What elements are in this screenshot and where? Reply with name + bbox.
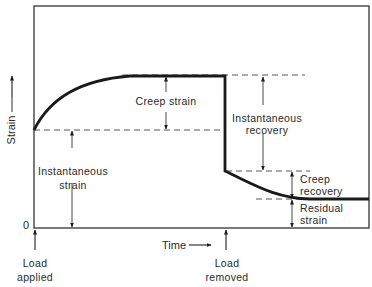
creep-recovery-label-line2: recovery [300, 185, 343, 197]
y-axis-label: Strain [5, 116, 17, 145]
creep-strain-diagram: Strain 0 Time Load applied Load removed … [0, 0, 372, 287]
creep-strain-label: Creep strain [136, 95, 197, 107]
origin-label: 0 [23, 219, 29, 231]
instantaneous-strain-label-line1: Instantaneous [38, 165, 108, 177]
instantaneous-recovery-label-line1: Instantaneous [232, 112, 302, 124]
load-applied-label-line2: applied [17, 271, 53, 283]
creep-recovery-label-line1: Creep [300, 173, 330, 185]
x-axis-label: Time [162, 239, 186, 251]
load-removed-label-line2: removed [206, 271, 249, 283]
residual-strain-label-line1: Residual [300, 202, 343, 214]
instantaneous-recovery-label-line2: recovery [246, 124, 289, 136]
instantaneous-strain-label-line2: strain [59, 179, 86, 191]
load-applied-label-line1: Load [23, 257, 48, 269]
residual-strain-label-line2: strain [300, 214, 327, 226]
load-removed-label-line1: Load [215, 257, 240, 269]
